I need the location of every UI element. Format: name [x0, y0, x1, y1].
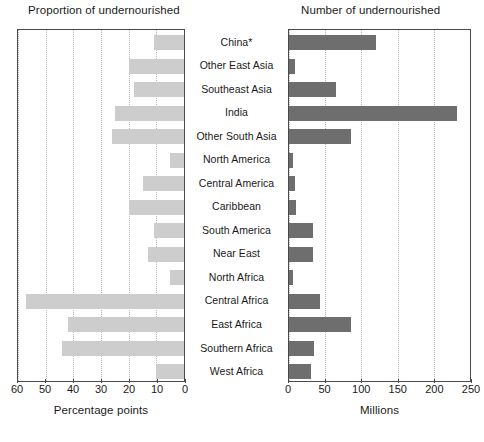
bar-row [18, 171, 184, 196]
bar [154, 35, 184, 50]
category-label-row: Southern Africa [185, 335, 288, 360]
category-label-row: China* [185, 29, 288, 54]
bar-row [18, 148, 184, 173]
axis-tick-label: 10 [151, 383, 163, 395]
bar [289, 223, 313, 238]
bar [289, 176, 295, 191]
bar-row [289, 265, 470, 290]
bar [143, 176, 185, 191]
category-label: Central Africa [205, 294, 269, 306]
left-x-axis: 6050403020100 [17, 383, 185, 401]
bar [129, 200, 184, 215]
axis-tick-label: 60 [11, 383, 23, 395]
bar-row [289, 124, 470, 149]
bar [289, 106, 457, 121]
bar-row [18, 336, 184, 361]
right-x-axis: 050100150200250 [288, 383, 471, 401]
bar [148, 247, 184, 262]
category-label-row: West Africa [185, 358, 288, 383]
gridline [470, 30, 471, 381]
category-label-row: India [185, 100, 288, 125]
bar [289, 317, 351, 332]
bar-row [289, 195, 470, 220]
axis-tick-label: 250 [462, 383, 480, 395]
category-label: Other East Asia [200, 59, 274, 71]
category-label: Other South Asia [196, 130, 276, 142]
axis-tick-label: 100 [352, 383, 370, 395]
bar-row [18, 242, 184, 267]
bar-row [289, 312, 470, 337]
bar [134, 82, 184, 97]
category-label: North America [203, 153, 270, 165]
left-panel-title: Proportion of undernourished [28, 4, 180, 16]
axis-tick-label: 50 [318, 383, 330, 395]
right-bar-series [289, 30, 470, 381]
bar [170, 270, 184, 285]
bar-row [289, 289, 470, 314]
axis-tick-label: 200 [425, 383, 443, 395]
left-x-axis-title: Percentage points [17, 404, 185, 416]
right-x-axis-title: Millions [288, 404, 471, 416]
category-label-row: East Africa [185, 311, 288, 336]
bar-row [18, 289, 184, 314]
category-label: South America [202, 224, 271, 236]
left-plot-area [17, 29, 185, 382]
bar-row [289, 218, 470, 243]
bar [156, 364, 184, 379]
bar [62, 341, 184, 356]
bar-row [289, 77, 470, 102]
bar-row [289, 148, 470, 173]
bar [289, 341, 314, 356]
axis-tick-label: 30 [95, 383, 107, 395]
category-label-row: Other East Asia [185, 53, 288, 78]
bar-row [289, 336, 470, 361]
category-axis-labels: China*Other East AsiaSoutheast AsiaIndia… [185, 29, 288, 382]
bar-row [289, 30, 470, 55]
category-label-row: Near East [185, 241, 288, 266]
category-label: Southern Africa [200, 342, 273, 354]
category-label-row: Southeast Asia [185, 76, 288, 101]
bar-row [18, 124, 184, 149]
bar [289, 270, 293, 285]
category-label: China* [221, 36, 253, 48]
axis-tick-label: 0 [182, 383, 188, 395]
bar-row [18, 195, 184, 220]
category-label: West Africa [210, 365, 263, 377]
category-label: Caribbean [212, 200, 261, 212]
bar-row [18, 265, 184, 290]
bar-row [18, 218, 184, 243]
axis-tick-label: 0 [285, 383, 291, 395]
bar-row [18, 312, 184, 337]
category-label: Central America [199, 177, 274, 189]
category-label: Southeast Asia [201, 83, 272, 95]
right-plot-area [288, 29, 471, 382]
category-label-row: South America [185, 217, 288, 242]
bar-row [289, 54, 470, 79]
bar [289, 153, 293, 168]
bar [289, 82, 336, 97]
right-panel-title: Number of undernourished [301, 4, 440, 16]
bar-row [289, 171, 470, 196]
bar-row [18, 30, 184, 55]
category-label-row: Caribbean [185, 194, 288, 219]
axis-tick-label: 50 [39, 383, 51, 395]
bar [289, 294, 320, 309]
left-bar-series [18, 30, 184, 381]
bar [154, 223, 184, 238]
category-label-row: North America [185, 147, 288, 172]
bar [289, 247, 313, 262]
bar [289, 200, 296, 215]
bar [289, 129, 351, 144]
bar-row [289, 242, 470, 267]
bar-row [18, 77, 184, 102]
category-label: India [225, 106, 248, 118]
bar [289, 364, 311, 379]
bar-row [18, 54, 184, 79]
bar-row [289, 101, 470, 126]
bar [289, 59, 295, 74]
axis-tick-label: 20 [123, 383, 135, 395]
category-label: East Africa [211, 318, 262, 330]
bar [289, 35, 376, 50]
category-label: Near East [213, 247, 260, 259]
category-label-row: Other South Asia [185, 123, 288, 148]
